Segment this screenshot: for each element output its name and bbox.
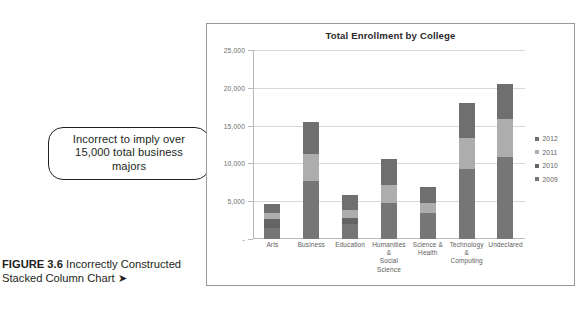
stacked-bar[interactable] xyxy=(303,122,319,239)
plot-area: -5,00010,00015,00020,00025,000 xyxy=(253,50,525,239)
chart-title: Total Enrollment by College xyxy=(207,30,574,41)
stacked-bar[interactable] xyxy=(342,195,358,239)
y-axis-tick xyxy=(248,239,253,240)
bar-segment-2009[interactable] xyxy=(497,157,513,239)
figure-caption: FIGURE 3.6 Incorrectly Constructed Stack… xyxy=(2,258,182,285)
chart-frame: Total Enrollment by College -5,00010,000… xyxy=(206,23,575,286)
y-axis-tick-label: 10,000 xyxy=(224,160,245,167)
bar-segment-2009[interactable] xyxy=(342,224,358,239)
legend-item-2010[interactable]: 2010 xyxy=(535,162,558,169)
y-axis-tick-label: 15,000 xyxy=(224,122,245,129)
bar-segment-2011[interactable] xyxy=(264,213,280,220)
bar-segment-2012[interactable] xyxy=(342,195,358,209)
bar-segment-2011[interactable] xyxy=(381,185,397,203)
callout-container: Incorrect to imply over 15,000 total bus… xyxy=(48,127,210,180)
bar-segment-2009[interactable] xyxy=(459,169,475,239)
bar-segment-2012[interactable] xyxy=(420,187,436,204)
caption-arrow-icon: ➤ xyxy=(118,272,127,284)
legend-swatch-icon xyxy=(535,137,539,141)
stacked-bar[interactable] xyxy=(497,84,513,239)
bar-segment-2011[interactable] xyxy=(342,210,358,218)
y-axis-tick-label: - xyxy=(243,236,245,243)
legend-item-2012[interactable]: 2012 xyxy=(535,135,558,142)
x-axis-label: Technology &Computing xyxy=(448,241,486,274)
bar-segment-2011[interactable] xyxy=(420,203,436,212)
y-axis-tick-label: 20,000 xyxy=(224,84,245,91)
bar-column[interactable] xyxy=(370,50,408,239)
stacked-bar[interactable] xyxy=(264,204,280,240)
legend-label: 2010 xyxy=(543,162,558,169)
callout-line-1: Incorrect to imply over xyxy=(58,133,200,146)
bar-segment-2011[interactable] xyxy=(497,119,513,158)
bar-segment-2010[interactable] xyxy=(264,219,280,227)
x-axis-label: Science &Health xyxy=(409,241,447,274)
x-axis-label: Arts xyxy=(253,241,291,274)
legend-item-2011[interactable]: 2011 xyxy=(535,149,558,156)
bar-segment-2009[interactable] xyxy=(303,181,319,239)
legend-label: 2011 xyxy=(543,149,558,156)
bar-segment-2012[interactable] xyxy=(497,84,513,119)
legend-label: 2012 xyxy=(543,135,558,142)
bar-segment-2009[interactable] xyxy=(381,203,397,239)
legend-item-2009[interactable]: 2009 xyxy=(535,176,558,183)
x-axis-label: Business xyxy=(292,241,330,274)
page-running-header xyxy=(228,0,573,5)
bar-segment-2012[interactable] xyxy=(459,103,475,139)
bar-column[interactable] xyxy=(448,50,486,239)
legend-swatch-icon xyxy=(535,177,539,181)
legend-swatch-icon xyxy=(535,150,539,154)
chart-legend: 2012201120102009 xyxy=(535,135,558,189)
bar-segment-2009[interactable] xyxy=(264,228,280,239)
y-axis-tick-label: 25,000 xyxy=(224,47,245,54)
callout-bubble: Incorrect to imply over 15,000 total bus… xyxy=(48,127,210,180)
stacked-bar[interactable] xyxy=(459,103,475,239)
y-axis-tick-label: 5,000 xyxy=(227,198,245,205)
bar-column[interactable] xyxy=(253,50,291,239)
bar-column[interactable] xyxy=(331,50,369,239)
stacked-bar[interactable] xyxy=(381,159,397,239)
x-axis-labels: ArtsBusinessEducationHumanities &Social … xyxy=(253,241,525,274)
bar-segment-2012[interactable] xyxy=(303,122,319,155)
plot-inner: -5,00010,00015,00020,00025,000 xyxy=(253,50,525,239)
bar-column[interactable] xyxy=(409,50,447,239)
x-axis-label: Education xyxy=(331,241,369,274)
figure-number: FIGURE 3.6 xyxy=(2,258,63,270)
callout-line-2: 15,000 total business majors xyxy=(58,146,200,173)
stacked-bar[interactable] xyxy=(420,187,436,239)
bar-series-group xyxy=(253,50,525,239)
legend-label: 2009 xyxy=(543,176,558,183)
bar-segment-2012[interactable] xyxy=(381,159,397,185)
bar-column[interactable] xyxy=(486,50,524,239)
bar-segment-2011[interactable] xyxy=(459,138,475,169)
bar-segment-2011[interactable] xyxy=(303,154,319,180)
legend-swatch-icon xyxy=(535,164,539,168)
x-axis-label: Undeclared xyxy=(486,241,524,274)
x-axis-label: Humanities &Social Science xyxy=(370,241,408,274)
bar-column[interactable] xyxy=(292,50,330,239)
bar-segment-2012[interactable] xyxy=(264,204,280,213)
bar-segment-2009[interactable] xyxy=(420,213,436,239)
